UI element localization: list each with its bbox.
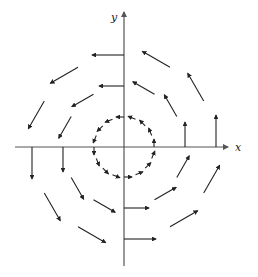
field-arrow-outer (204, 165, 220, 193)
field-arrow-outer (44, 193, 60, 221)
field-arrow-outer (28, 101, 44, 129)
field-arrow-inner (97, 126, 103, 132)
field-arrow-outer (170, 211, 198, 227)
field-arrow-inner (136, 172, 143, 175)
vector-field-diagram: x y (0, 0, 258, 277)
field-arrow-inner (145, 163, 151, 169)
field-arrow-outer (78, 227, 106, 243)
y-axis-label: y (110, 11, 118, 24)
field-arrow-inner (113, 175, 120, 178)
field-arrow-inner (140, 120, 146, 126)
field-arrow-inner (152, 151, 155, 158)
field-arrow-outer (188, 73, 204, 101)
field-arrow-inner (103, 168, 109, 174)
field-arrow-outer (142, 51, 170, 67)
field-arrow-middle (94, 200, 116, 213)
field-arrow-inner (149, 128, 152, 135)
field-arrow-inner (105, 119, 112, 122)
field-arrow-inner (128, 116, 135, 119)
field-arrow-middle (72, 94, 94, 107)
field-arrow-middle (59, 117, 71, 139)
field-arrow-middle (155, 187, 177, 200)
field-arrow-middle (164, 95, 177, 117)
field-arrow-middle (177, 156, 190, 178)
field-arrow-inner (96, 159, 99, 166)
field-arrow-middle (71, 178, 84, 200)
x-axis-label: x (235, 141, 242, 154)
field-arrow-middle (133, 82, 155, 95)
field-arrow-inner (93, 136, 96, 143)
field-arrow-outer (50, 67, 78, 83)
